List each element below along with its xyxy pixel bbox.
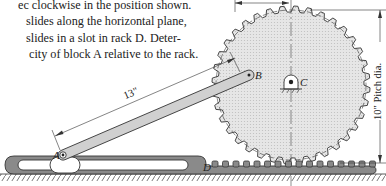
label-C: C <box>300 76 308 88</box>
rack-slot <box>18 160 188 170</box>
ground <box>0 174 386 181</box>
label-D: D <box>202 161 211 173</box>
label-A: A <box>52 149 60 161</box>
mechanism-figure: 13" 10" Pitch dia. A B C D <box>0 0 386 186</box>
link-length-label: 13" <box>122 85 140 101</box>
label-B: B <box>255 69 262 81</box>
dimension-link-length: 13" <box>52 52 240 150</box>
pitch-diameter-label: 10" Pitch dia. <box>372 63 383 120</box>
